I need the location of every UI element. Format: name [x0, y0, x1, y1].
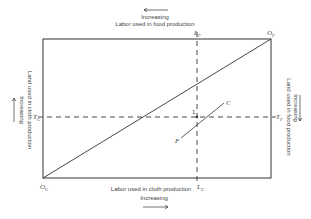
- origin-cloth-label: OC: [40, 183, 49, 192]
- right-increasing-label: Increasing: [293, 94, 299, 122]
- right-increasing-annotation: Increasing: [293, 94, 299, 122]
- label-tf: TF: [276, 113, 283, 122]
- label-tc: TC: [33, 113, 41, 122]
- edgeworth-box-diagram: C F 1 OC OF LF LC TC TF Increasing Labor…: [0, 0, 311, 219]
- label-lc: LC: [196, 183, 205, 192]
- top-increasing-label: Increasing: [141, 14, 169, 20]
- origin-food-label: OF: [267, 29, 275, 38]
- bottom-increasing-label: Increasing: [140, 195, 168, 201]
- cf-ray-line: [181, 103, 224, 138]
- left-increasing-annotation: Increasing: [19, 96, 25, 124]
- contract-line: [43, 39, 271, 178]
- label-point-1: 1: [192, 109, 196, 115]
- label-c: C: [226, 99, 231, 107]
- right-axis-annotation: Land used in food production: [286, 78, 292, 155]
- label-lf: LF: [193, 29, 201, 38]
- left-axis-annotation: Land used in cloth production: [27, 71, 33, 149]
- bottom-axis-annotation: Labor used in cloth production Increasin…: [111, 186, 191, 209]
- left-increasing-label: Increasing: [19, 96, 25, 124]
- label-f: F: [174, 137, 180, 145]
- left-axis-label: Land used in cloth production: [27, 71, 33, 149]
- top-axis-label: Labor used in food production: [115, 21, 194, 27]
- top-axis-annotation: Increasing Labor used in food production: [115, 8, 194, 27]
- right-axis-label: Land used in food production: [286, 78, 292, 155]
- point-1-marker: [196, 116, 198, 118]
- bottom-axis-label: Labor used in cloth production: [111, 186, 191, 192]
